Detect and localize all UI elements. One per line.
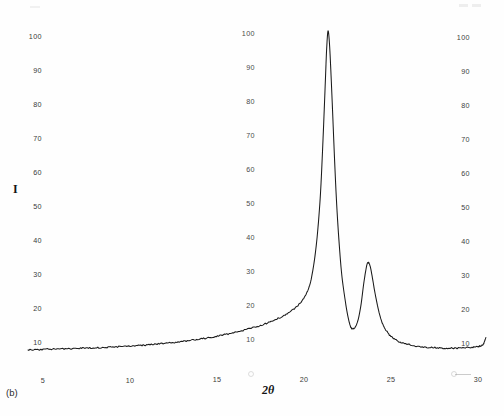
y-tick-label: 40: [233, 233, 255, 242]
y-tick-label: 60: [233, 165, 255, 174]
y-tick-label: 90: [448, 67, 470, 76]
x-tick-label: 25: [381, 375, 401, 384]
scan-artifact-smudge: [472, 4, 481, 7]
y-tick-label: 20: [448, 305, 470, 314]
y-tick-label: 60: [20, 168, 42, 177]
panel-caption: (b): [6, 387, 18, 398]
y-tick-label: 80: [20, 100, 42, 109]
scan-artifact-line: [455, 374, 471, 375]
y-tick-label: 20: [20, 304, 42, 313]
x-tick-label: 30: [468, 375, 488, 384]
y-tick-label: 40: [20, 236, 42, 245]
y-tick-label: 10: [448, 339, 470, 348]
y-tick-label: 100: [20, 32, 42, 41]
y-tick-label: 50: [20, 202, 42, 211]
y-tick-label: 50: [448, 203, 470, 212]
x-tick-label: 15: [207, 375, 227, 384]
y-tick-label: 10: [20, 338, 42, 347]
y-tick-label: 10: [233, 335, 255, 344]
y-tick-label: 70: [20, 134, 42, 143]
y-tick-label: 90: [20, 66, 42, 75]
y-axis-title: I: [13, 182, 18, 197]
x-axis-title: 2θ: [262, 383, 274, 398]
x-tick-label: 20: [294, 375, 314, 384]
diffractogram-curve: [28, 31, 486, 351]
y-tick-label: 30: [20, 270, 42, 279]
scan-artifact-mark: [248, 371, 254, 377]
y-tick-label: 80: [233, 97, 255, 106]
scan-artifact-smudge: [30, 6, 40, 8]
xrd-figure: 100 90 80 70 60 50 40 30 20 10 100 90 80…: [0, 0, 504, 416]
y-tick-label: 80: [448, 101, 470, 110]
y-tick-label: 60: [448, 169, 470, 178]
y-tick-label: 100: [448, 33, 470, 42]
x-tick-label: 5: [33, 376, 53, 385]
y-tick-label: 30: [448, 271, 470, 280]
y-tick-label: 30: [233, 267, 255, 276]
y-tick-label: 70: [448, 135, 470, 144]
y-tick-label: 90: [233, 63, 255, 72]
y-tick-label: 40: [448, 237, 470, 246]
y-tick-label: 100: [233, 29, 255, 38]
y-tick-label: 70: [233, 131, 255, 140]
scan-artifact-smudge: [459, 4, 468, 7]
x-tick-label: 10: [120, 376, 140, 385]
y-tick-label: 50: [233, 199, 255, 208]
y-tick-label: 20: [233, 301, 255, 310]
